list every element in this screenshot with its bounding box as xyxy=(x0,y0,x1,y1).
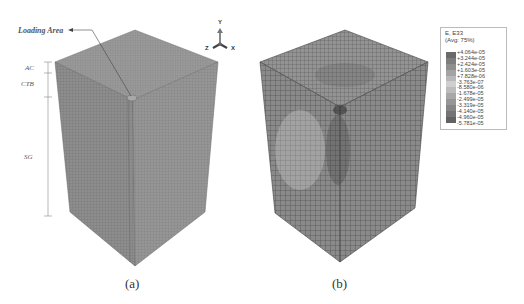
loading-area-label: Loading Area xyxy=(17,26,63,35)
axis-z-label: Z xyxy=(205,45,209,51)
axis-x-label: X xyxy=(231,45,235,51)
panel-b-caption: (b) xyxy=(332,276,347,291)
legend-values: +4.064e-05 +3.244e-05 +2.424e-05 +1.603e… xyxy=(457,50,485,127)
contour-legend: E, E33 (Avg: 75%) +4.064e-05 +3.244e-05 … xyxy=(440,27,507,130)
layer-label-ac: AC xyxy=(24,64,34,72)
axis-triad: Y Z X xyxy=(205,19,235,51)
legend-title-averaging: (Avg: 75%) xyxy=(445,37,475,44)
panel-a-model xyxy=(55,30,218,266)
legend-value: -5.781e-05 xyxy=(457,121,485,127)
legend-color-bar xyxy=(446,52,456,123)
panel-a-caption: (a) xyxy=(125,276,139,291)
panel-b-model xyxy=(260,30,428,262)
legend-title: E, E33 (Avg: 75%) xyxy=(445,30,475,44)
layer-label-ctb: CTB xyxy=(21,80,35,88)
layer-dimension-lines: AC CTB SG xyxy=(21,62,52,216)
loading-area-marker xyxy=(127,95,137,101)
legend-title-variable: E, E33 xyxy=(445,30,475,37)
legend-color-band xyxy=(446,117,456,123)
axis-y-label: Y xyxy=(218,19,222,25)
layer-label-sg: SG xyxy=(24,153,33,161)
